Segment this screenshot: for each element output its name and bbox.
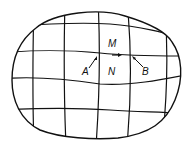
grid-line-v1 [33,0,34,146]
grid-line-v2 [64,0,66,146]
label-m: M [108,38,117,49]
label-b: B [142,66,149,77]
grid-line-v5 [162,0,167,146]
grid-line-h4 [0,109,190,115]
grid-region-diagram: M N A B [0,0,195,146]
grid-line-v3 [96,0,99,146]
grid-line-h3 [0,74,190,84]
arrowhead-icon [118,53,122,57]
label-a: A [81,66,89,77]
label-n: N [108,66,116,77]
grid-line-h2 [0,51,190,56]
grid-line-v4 [127,0,130,146]
